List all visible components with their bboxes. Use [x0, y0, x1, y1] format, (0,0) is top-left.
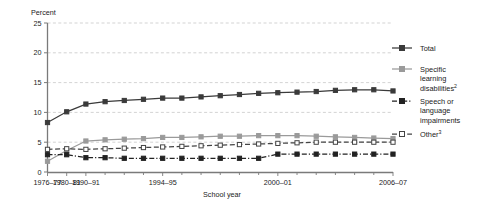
data-point-marker — [45, 147, 49, 151]
data-point-marker — [141, 156, 145, 160]
data-point-marker — [353, 135, 357, 139]
data-point-marker — [161, 156, 165, 160]
data-point-marker — [391, 152, 395, 156]
data-point-marker — [180, 135, 184, 139]
legend-label: learning — [420, 74, 446, 83]
data-point-marker — [372, 140, 376, 144]
data-point-marker — [372, 152, 376, 156]
data-point-marker — [295, 141, 299, 145]
legend-marker — [400, 46, 405, 51]
data-point-marker — [45, 159, 49, 163]
data-point-marker — [353, 88, 357, 92]
y-tick-label: 10 — [34, 108, 42, 117]
data-point-marker — [122, 137, 126, 141]
y-tick-label: 20 — [34, 48, 42, 57]
data-point-marker — [199, 156, 203, 160]
legend-footnote-marker: 3 — [438, 129, 441, 135]
data-point-marker — [314, 140, 318, 144]
data-point-marker — [276, 141, 280, 145]
data-point-marker — [141, 137, 145, 141]
data-point-marker — [45, 120, 49, 124]
data-point-marker — [141, 145, 145, 149]
x-tick-label: 2000–01 — [264, 178, 292, 187]
data-point-marker — [391, 89, 395, 93]
data-point-marker — [257, 156, 261, 160]
legend-entry[interactable]: Other3 — [392, 129, 441, 139]
data-point-marker — [180, 96, 184, 100]
gridlines — [48, 23, 394, 142]
legend-label: Specific — [420, 65, 446, 74]
legend-marker — [400, 132, 405, 137]
x-axis-ticks: 1976–771980–811990–911994–952000–012006–… — [34, 172, 407, 187]
data-point-marker — [161, 135, 165, 139]
chart-legend: TotalSpecificlearningdisabilities2Speech… — [392, 44, 461, 139]
data-point-marker — [199, 95, 203, 99]
data-point-marker — [257, 91, 261, 95]
data-point-marker — [84, 102, 88, 106]
chart-container: Percent 0510152025 1976–771980–811990–91… — [0, 0, 490, 211]
data-point-marker — [103, 156, 107, 160]
x-tick-label: 1994–95 — [149, 178, 177, 187]
data-point-marker — [237, 92, 241, 96]
legend-marker — [400, 67, 405, 72]
data-series-layer — [45, 88, 395, 164]
data-point-marker — [65, 147, 69, 151]
data-point-marker — [314, 89, 318, 93]
legend-entry[interactable]: Speech orlanguageimpairments — [392, 97, 461, 125]
data-point-marker — [103, 147, 107, 151]
data-point-marker — [257, 134, 261, 138]
data-point-marker — [314, 152, 318, 156]
data-point-marker — [161, 145, 165, 149]
data-point-marker — [218, 94, 222, 98]
data-point-marker — [333, 152, 337, 156]
x-tick-label: 1990–91 — [72, 178, 100, 187]
x-axis-title: School year — [203, 190, 242, 199]
data-point-marker — [84, 139, 88, 143]
data-point-marker — [257, 142, 261, 146]
data-point-marker — [84, 147, 88, 151]
data-point-marker — [218, 156, 222, 160]
data-point-marker — [122, 156, 126, 160]
legend-label: impairments — [420, 116, 461, 125]
data-point-marker — [372, 88, 376, 92]
data-point-marker — [218, 143, 222, 147]
line-chart: Percent 0510152025 1976–771980–811990–91… — [0, 0, 490, 211]
legend-entry[interactable]: Specificlearningdisabilities2 — [392, 65, 457, 93]
data-point-marker — [218, 134, 222, 138]
y-tick-label: 5 — [38, 138, 42, 147]
y-tick-label: 25 — [34, 19, 42, 28]
data-point-marker — [295, 152, 299, 156]
data-point-marker — [103, 100, 107, 104]
data-point-marker — [314, 134, 318, 138]
data-point-marker — [333, 135, 337, 139]
data-point-marker — [391, 140, 395, 144]
data-point-marker — [103, 138, 107, 142]
data-point-marker — [122, 146, 126, 150]
data-series — [45, 88, 395, 125]
legend-label: disabilities2 — [420, 83, 457, 93]
data-point-marker — [276, 91, 280, 95]
data-point-marker — [45, 153, 49, 157]
data-point-marker — [141, 97, 145, 101]
x-tick-label: 2006–07 — [379, 178, 407, 187]
legend-label: Total — [420, 44, 436, 53]
data-point-marker — [372, 136, 376, 140]
legend-footnote-marker: 2 — [454, 83, 457, 89]
data-point-marker — [237, 142, 241, 146]
data-point-marker — [161, 96, 165, 100]
data-point-marker — [353, 152, 357, 156]
legend-entry[interactable]: Total — [392, 44, 436, 53]
data-point-marker — [65, 153, 69, 157]
data-point-marker — [237, 134, 241, 138]
y-tick-label: 15 — [34, 78, 42, 87]
data-point-marker — [199, 144, 203, 148]
data-point-marker — [180, 156, 184, 160]
data-series — [45, 152, 395, 160]
legend-label: Speech or — [420, 97, 454, 106]
data-point-marker — [276, 134, 280, 138]
data-point-marker — [122, 98, 126, 102]
data-point-marker — [180, 144, 184, 148]
data-point-marker — [295, 90, 299, 94]
y-tick-label: 0 — [38, 168, 42, 177]
legend-label: language — [420, 106, 450, 115]
